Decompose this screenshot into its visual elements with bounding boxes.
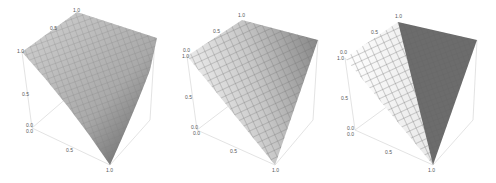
tick-label: 1.0 <box>106 167 113 173</box>
tick-label: 0.5 <box>371 29 378 35</box>
surface-plot-2: 1.0 0.5 0.0 1.0 0.5 0.0 0.0 0.5 1.0 <box>165 0 330 183</box>
tick-label: 0.5 <box>22 91 29 97</box>
tick-label: 0.0 <box>26 128 33 134</box>
tick-label: 1.0 <box>395 13 402 19</box>
tick-label: 0.5 <box>341 95 348 101</box>
tick-label: 0.5 <box>66 147 73 153</box>
tick-label: 1.0 <box>238 12 245 18</box>
tick-label: 0.5 <box>50 25 57 31</box>
tick-label: 1.0 <box>428 167 435 173</box>
tick-label: 0.5 <box>213 28 220 34</box>
tick-label: 1.0 <box>73 7 80 13</box>
surface-plot-3: 1.0 0.5 0.0 1.0 0.5 0.0 0.0 0.5 1.0 <box>325 0 496 183</box>
tick-label: 0.5 <box>385 149 392 155</box>
tick-label: 1.0 <box>17 48 24 54</box>
surface-plot-1: 1.0 0.5 1.0 0.5 0.0 0.0 0.5 1.0 <box>0 0 170 183</box>
tick-label: 1.0 <box>337 55 344 61</box>
tick-label: 1.0 <box>272 167 279 173</box>
tick-label: 1.0 <box>182 53 189 59</box>
tick-label: 0.5 <box>230 148 237 154</box>
tick-label: 0.0 <box>347 131 354 137</box>
tick-label: 0.0 <box>193 130 200 136</box>
tick-label: 0.5 <box>185 94 192 100</box>
